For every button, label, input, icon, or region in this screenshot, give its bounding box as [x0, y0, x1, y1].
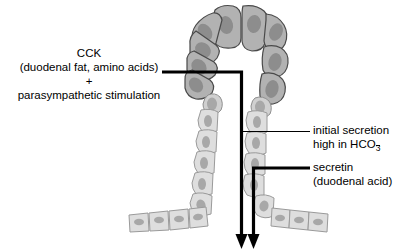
bicarbonate-prefix: high in HCO	[313, 138, 376, 150]
initial-secretion-label-line1: initial secretion	[313, 124, 389, 138]
duct-floor-right	[271, 208, 328, 232]
initial-secretion-label-line2: high in HCO3	[313, 138, 380, 156]
acinar-cell-arch	[185, 6, 288, 105]
secretin-label-line1: secretin	[313, 161, 353, 175]
duct-cell	[149, 211, 169, 231]
duct-cell	[245, 132, 266, 155]
duct-cell	[289, 210, 309, 230]
secretin-flow-arrow	[248, 234, 260, 249]
duct-floor-left	[129, 207, 208, 232]
duct-cell	[189, 207, 208, 228]
duct-cell	[169, 209, 189, 230]
bicarbonate-bar-wrap: 3	[376, 138, 381, 156]
duct-cell	[198, 109, 218, 132]
parasympathetic-stimulation-label: parasympathetic stimulation	[0, 89, 178, 103]
minus-charge-overbar	[376, 145, 381, 146]
duct-cell	[246, 111, 267, 134]
secretin-stimulus-label: (duodenal acid)	[313, 175, 392, 189]
duct-cell	[308, 212, 328, 232]
duct-cell	[129, 213, 149, 232]
duct-cell	[271, 208, 290, 228]
duct-cell	[253, 195, 274, 218]
cck-stimulus-label: (duodenal fat, amino acids)	[0, 61, 178, 75]
cck-flow-arrow	[236, 234, 248, 249]
diagram-canvas: CCK (duodenal fat, amino acids) + parasy…	[0, 0, 417, 251]
duct-cell	[194, 151, 215, 175]
duct-cell	[196, 130, 217, 154]
duct-cell	[192, 172, 213, 196]
plus-sign-label: +	[0, 75, 178, 89]
duct-wall-right	[243, 111, 274, 218]
bicarbonate-subscript-group: 3	[376, 138, 381, 156]
duct-wall-left	[190, 109, 218, 215]
cck-label: CCK	[18, 47, 160, 61]
